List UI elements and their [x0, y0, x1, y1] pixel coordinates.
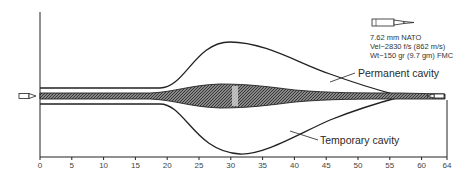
- cartridge-weight: Wt−150 gr (9.7 gm) FMC: [370, 51, 453, 60]
- tick-label: 55: [385, 161, 394, 170]
- tick-label: 5: [70, 161, 74, 170]
- tick-label: 40: [290, 161, 299, 170]
- cartridge-icon: [372, 19, 414, 26]
- tick-label: 60: [417, 161, 426, 170]
- bullet-icon-entry: [19, 94, 36, 99]
- tick-label: 20: [163, 161, 172, 170]
- permanent-cavity-leader: [330, 73, 355, 82]
- tick-label: 50: [354, 161, 363, 170]
- tick-label: 15: [131, 161, 140, 170]
- cartridge-name: 7.62 mm NATO: [370, 33, 453, 42]
- cartridge-spec: 7.62 mm NATO Vel−2830 f/s (862 m/s) Wt−1…: [370, 33, 453, 60]
- tick-label: 35: [258, 161, 267, 170]
- tick-label: 0: [38, 161, 42, 170]
- cartridge-velocity: Vel−2830 f/s (862 m/s): [370, 42, 453, 51]
- cavity-highlight: [232, 86, 238, 106]
- temporary-cavity-label: Temporary cavity: [320, 134, 399, 146]
- wound-profile-diagram: [0, 0, 475, 179]
- tick-label: 45: [322, 161, 331, 170]
- tick-label: 30: [226, 161, 235, 170]
- permanent-cavity-label: Permanent cavity: [358, 67, 439, 79]
- tick-label: 10: [99, 161, 108, 170]
- tick-label: 25: [195, 161, 204, 170]
- tick-label: 64: [443, 161, 452, 170]
